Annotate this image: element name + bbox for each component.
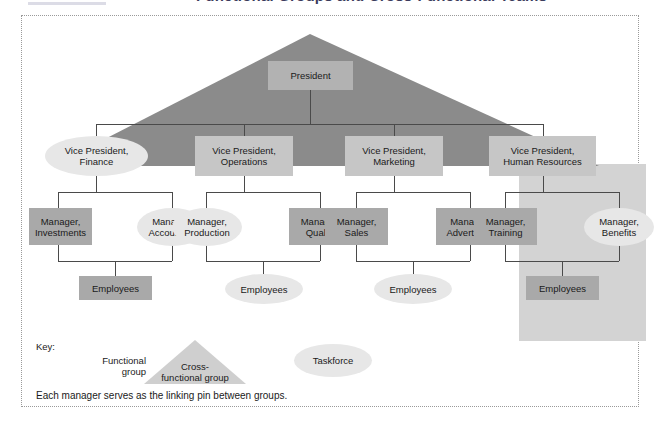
- legend-taskforce-swatch: Taskforce: [294, 344, 372, 377]
- legend-heading: Key:: [36, 341, 55, 352]
- diagram-frame: President Vice President, Finance Vice P…: [21, 15, 639, 407]
- page-title: Functional Groups and Cross-Functional T…: [196, 0, 547, 4]
- title-rule: [28, 2, 106, 5]
- legend: Key: Functional group Cross- functional …: [22, 16, 640, 408]
- legend-caption: Each manager serves as the linking pin b…: [36, 390, 287, 401]
- page-title-strip: Functional Groups and Cross-Functional T…: [0, 0, 661, 9]
- legend-cross-functional-group-label: Cross- functional group: [132, 361, 258, 383]
- org-chart-canvas: President Vice President, Finance Vice P…: [22, 16, 640, 408]
